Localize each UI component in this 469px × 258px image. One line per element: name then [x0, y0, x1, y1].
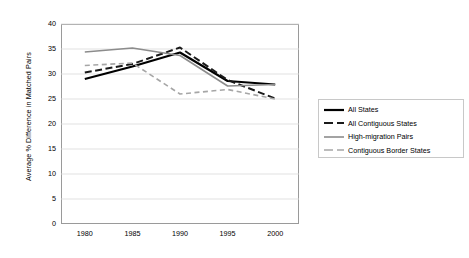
y-tick-label: 5: [38, 195, 56, 203]
y-tick-label: 25: [38, 95, 56, 103]
legend-swatch-2: [323, 132, 345, 142]
series-line-0: [85, 53, 275, 85]
y-tick-label: 35: [38, 45, 56, 53]
legend-swatch-1: [323, 118, 345, 128]
legend-label-1: All Contiguous States: [348, 119, 417, 128]
legend-item-0[interactable]: All States: [323, 103, 378, 116]
legend-label-3: Contiguous Border States: [348, 146, 430, 155]
legend-item-1[interactable]: All Contiguous States: [323, 117, 417, 130]
legend-swatch-3: [323, 145, 345, 155]
x-tick-label: 1985: [112, 230, 152, 238]
chart-legend: All StatesAll Contiguous StatesHigh-migr…: [318, 99, 464, 158]
x-tick-label: 1990: [160, 230, 200, 238]
legend-item-2[interactable]: High-migration Pairs: [323, 130, 413, 143]
y-tick-label: 30: [38, 70, 56, 78]
x-tick-label: 2000: [255, 230, 295, 238]
chart-figure: Average % Difference in Matched Pairs 05…: [0, 0, 469, 258]
x-tick-label: 1995: [208, 230, 248, 238]
x-tick-label: 1980: [65, 230, 105, 238]
y-axis-title: Average % Difference in Matched Pairs: [24, 17, 33, 217]
y-tick-label: 0: [38, 220, 56, 228]
y-tick-label: 20: [38, 120, 56, 128]
series-line-3: [85, 63, 275, 99]
y-tick-label: 15: [38, 145, 56, 153]
legend-item-3[interactable]: Contiguous Border States: [323, 144, 430, 157]
plot-lines: [61, 24, 299, 224]
legend-label-2: High-migration Pairs: [348, 132, 413, 141]
y-tick-label: 40: [38, 20, 56, 28]
legend-swatch-0: [323, 105, 345, 115]
y-tick-label: 10: [38, 170, 56, 178]
legend-label-0: All States: [348, 105, 378, 114]
